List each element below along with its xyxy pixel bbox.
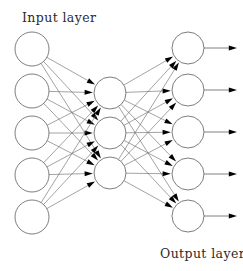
output-arrow-head-icon — [229, 172, 237, 177]
hidden-neuron-3 — [94, 157, 126, 189]
output-neuron-2 — [172, 74, 204, 106]
arrow-head-icon — [87, 181, 95, 187]
hidden-layer-nodes — [94, 77, 126, 189]
connection-line — [47, 144, 89, 167]
connection-line — [124, 60, 167, 85]
output-layer-nodes — [172, 32, 204, 232]
connection-line — [47, 185, 89, 209]
output-arrow-head-icon — [229, 46, 237, 51]
input-layer-nodes — [15, 32, 49, 234]
output-neuron-5 — [172, 200, 204, 232]
input-neuron-3 — [15, 116, 49, 150]
output-arrow-head-icon — [229, 130, 237, 135]
output-arrow-head-icon — [229, 88, 237, 93]
connection-line — [49, 91, 86, 92]
arrow-head-icon — [85, 90, 93, 95]
connection-line — [44, 103, 94, 155]
connection-line — [49, 174, 86, 175]
arrow-head-icon — [165, 98, 173, 104]
arrow-head-icon — [164, 160, 172, 166]
arrow-head-icon — [163, 171, 171, 176]
edges-hidden-to-output — [118, 57, 178, 208]
arrow-head-icon — [165, 57, 173, 63]
output-neuron-3 — [172, 116, 204, 148]
connection-line — [126, 91, 164, 92]
connection-line — [41, 113, 97, 202]
connection-line — [124, 181, 167, 205]
arrow-head-icon — [87, 78, 95, 84]
output-arrow-head-icon — [229, 214, 237, 219]
connection-line — [124, 140, 167, 162]
output-neuron-1 — [172, 32, 204, 64]
input-neuron-2 — [15, 74, 49, 108]
arrow-head-icon — [164, 140, 172, 146]
hidden-neuron-1 — [94, 77, 126, 109]
connection-line — [47, 99, 89, 122]
arrow-head-icon — [86, 101, 94, 107]
arrow-head-icon — [163, 130, 171, 135]
connection-line — [41, 63, 97, 152]
arrow-head-icon — [163, 88, 171, 93]
input-neuron-1 — [15, 32, 49, 66]
arrow-head-icon — [85, 171, 93, 176]
output-neuron-4 — [172, 158, 204, 190]
connection-line — [47, 57, 89, 81]
input-layer-label: Input layer — [22, 10, 96, 25]
input-neuron-4 — [15, 158, 49, 192]
neural-network-diagram: Input layer Output layer — [0, 0, 243, 271]
hidden-neuron-2 — [94, 117, 126, 149]
output-arrows — [204, 46, 237, 219]
connection-line — [124, 102, 167, 126]
edges-input-to-hidden — [41, 57, 101, 208]
input-neuron-5 — [15, 200, 49, 234]
arrow-head-icon — [86, 141, 94, 147]
connection-line — [44, 110, 94, 162]
arrow-head-icon — [165, 202, 173, 208]
connection-line — [124, 143, 167, 165]
arrow-head-icon — [164, 118, 172, 124]
network-canvas: Input layer Output layer — [0, 0, 243, 271]
output-layer-label: Output layer — [160, 246, 243, 261]
arrow-head-icon — [86, 159, 94, 165]
